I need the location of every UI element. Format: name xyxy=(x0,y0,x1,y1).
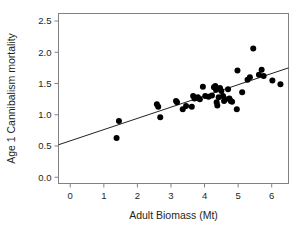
data-point xyxy=(239,89,245,95)
x-tick-label: 3 xyxy=(168,190,173,201)
y-tick-label: 0.0 xyxy=(38,172,51,183)
scatter-plot-figure: 01234560.00.51.01.52.02.5Adult Biomass (… xyxy=(0,0,301,227)
data-point xyxy=(259,67,265,73)
data-point xyxy=(114,135,120,141)
regression-line xyxy=(59,68,289,145)
y-axis-label: Age 1 Cannibalism mortality xyxy=(5,32,17,163)
data-point xyxy=(189,104,195,110)
data-point xyxy=(155,104,161,110)
data-point xyxy=(174,99,180,105)
plot-frame xyxy=(59,14,289,184)
y-tick-label: 1.5 xyxy=(38,78,51,89)
data-point xyxy=(214,102,220,108)
data-point xyxy=(261,73,267,79)
data-point xyxy=(247,74,253,80)
y-tick-label: 0.5 xyxy=(38,140,51,151)
y-tick-label: 2.5 xyxy=(38,15,51,26)
data-point xyxy=(229,99,235,105)
data-point xyxy=(234,106,240,112)
data-point xyxy=(250,46,256,52)
data-point xyxy=(200,84,206,90)
x-tick-label: 6 xyxy=(269,190,274,201)
data-point xyxy=(277,81,283,87)
y-tick-label: 1.0 xyxy=(38,109,51,120)
data-point xyxy=(225,86,231,92)
chart-canvas: 01234560.00.51.01.52.02.5Adult Biomass (… xyxy=(0,0,301,227)
x-tick-label: 2 xyxy=(135,190,140,201)
x-tick-label: 4 xyxy=(202,190,207,201)
x-tick-label: 5 xyxy=(235,190,240,201)
data-point xyxy=(209,92,215,98)
data-point xyxy=(234,67,240,73)
x-tick-label: 0 xyxy=(68,190,73,201)
data-point xyxy=(157,114,163,120)
data-point xyxy=(116,118,122,124)
data-point xyxy=(183,103,189,109)
data-point xyxy=(269,77,275,83)
x-axis-label: Adult Biomass (Mt) xyxy=(129,209,218,221)
data-point xyxy=(197,96,203,102)
y-tick-label: 2.0 xyxy=(38,47,51,58)
x-tick-label: 1 xyxy=(101,190,106,201)
